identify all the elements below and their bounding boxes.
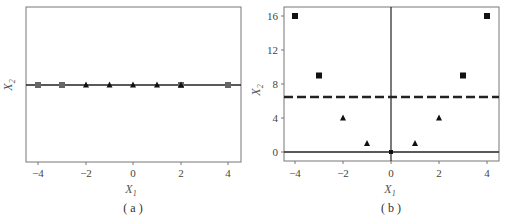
tick-label: 0 <box>388 167 394 179</box>
tick-label: −2 <box>80 167 92 179</box>
tick-label: 4 <box>273 112 279 124</box>
chart-a-x-axis-label: X1 <box>124 182 136 198</box>
tick-label: 2 <box>178 167 184 179</box>
svg-text:X2: X2 <box>249 84 265 96</box>
tick-label: 0 <box>130 167 136 179</box>
chart-b-x-tick-labels: −4 −2 0 2 4 <box>289 167 490 179</box>
x-label-sub: 1 <box>133 189 137 198</box>
chart-a: −4 −2 0 2 4 X2 X1 ( a ) <box>1 7 241 215</box>
chart-b-x-axis-label: X1 <box>383 182 395 198</box>
tick-label: 4 <box>484 167 490 179</box>
chart-a-y-axis-label: X2 <box>1 79 17 91</box>
tick-label: −4 <box>32 167 44 179</box>
svg-text:X2: X2 <box>1 79 17 91</box>
chart-b-caption: ( b ) <box>381 201 401 215</box>
tick-label: 4 <box>225 167 231 179</box>
tick-label: 2 <box>436 167 442 179</box>
chart-a-x-tick-labels: −4 −2 0 2 4 <box>32 167 231 179</box>
x-label-sub: 1 <box>392 189 396 198</box>
chart-b-y-tick-labels: 0 4 8 12 16 <box>267 10 279 158</box>
tick-label: 0 <box>273 146 279 158</box>
y-label-sub: 2 <box>256 84 265 88</box>
tick-label: 12 <box>267 44 278 56</box>
tick-label: −2 <box>337 167 349 179</box>
chart-b-y-axis-label: X2 <box>249 84 265 96</box>
y-label-sub: 2 <box>8 79 17 83</box>
chart-b: 0 4 8 12 16 −4 −2 0 2 4 <box>249 7 499 215</box>
tick-label: −4 <box>289 167 301 179</box>
chart-a-caption: ( a ) <box>123 201 142 215</box>
tick-label: 16 <box>267 10 279 22</box>
tick-label: 8 <box>273 78 279 90</box>
